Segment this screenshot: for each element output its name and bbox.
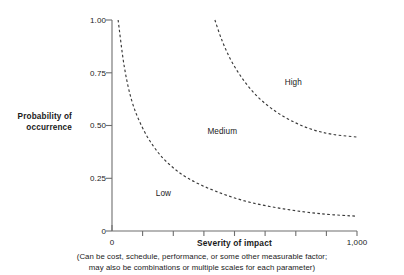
low-medium-boundary-curve [118,20,357,216]
y-axis-ticks [106,20,112,231]
region-label-high: High [285,78,302,87]
caption-line2: may also be combinations or multiple sca… [28,263,376,274]
risk-matrix-chart: Probability of occurrence 1.00 0.75 0.50… [0,0,404,275]
plot-area [0,0,404,275]
figure-caption: (Can be cost, schedule, performance, or … [28,252,376,273]
region-label-low: Low [156,189,171,198]
caption-line1: (Can be cost, schedule, performance, or … [28,252,376,263]
region-label-medium: Medium [207,127,237,136]
